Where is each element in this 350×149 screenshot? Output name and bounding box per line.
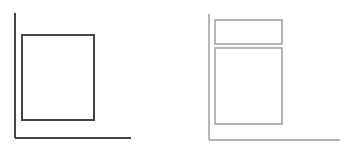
stacked-box-figure — [209, 14, 340, 140]
layout-box-1 — [215, 20, 282, 44]
layout-box-2 — [215, 48, 282, 124]
layout-box-1 — [22, 35, 94, 120]
single-box-figure — [15, 13, 131, 138]
diagram-canvas — [0, 0, 350, 149]
